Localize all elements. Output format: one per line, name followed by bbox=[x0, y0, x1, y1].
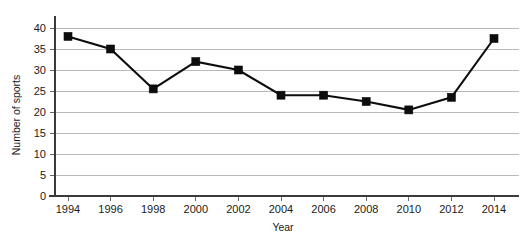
data-point-marker bbox=[149, 85, 157, 93]
y-axis-title: Number of sports bbox=[10, 75, 22, 156]
data-point-marker bbox=[490, 35, 498, 43]
data-point-marker bbox=[447, 93, 455, 101]
y-tick-label: 15 bbox=[34, 127, 46, 139]
x-tick-label: 2012 bbox=[439, 203, 463, 215]
y-tick-label: 35 bbox=[34, 43, 46, 55]
x-tick-label: 2000 bbox=[184, 203, 208, 215]
x-axis-title: Year bbox=[272, 221, 294, 233]
x-tick-label: 2004 bbox=[269, 203, 293, 215]
line-chart: 0510152025303540 19941996199820002002200… bbox=[0, 0, 529, 248]
data-point-marker bbox=[107, 45, 115, 53]
data-point-marker bbox=[362, 98, 370, 106]
data-point-marker bbox=[277, 91, 285, 99]
x-tick-label: 1998 bbox=[141, 203, 165, 215]
y-tick-label: 20 bbox=[34, 106, 46, 118]
data-point-marker bbox=[234, 66, 242, 74]
data-point-marker bbox=[405, 106, 413, 114]
x-tick-label: 1994 bbox=[56, 203, 80, 215]
y-tick-label: 40 bbox=[34, 22, 46, 34]
x-tick-label: 2002 bbox=[226, 203, 250, 215]
data-point-marker bbox=[64, 32, 72, 40]
y-tick-label: 25 bbox=[34, 85, 46, 97]
data-point-marker bbox=[320, 91, 328, 99]
x-tick-label: 2008 bbox=[354, 203, 378, 215]
x-tick-label: 1996 bbox=[98, 203, 122, 215]
y-tick-label: 5 bbox=[40, 169, 46, 181]
x-tick-label: 2014 bbox=[482, 203, 506, 215]
chart-figure: 0510152025303540 19941996199820002002200… bbox=[0, 0, 529, 248]
x-tick-label: 2006 bbox=[311, 203, 335, 215]
data-point-marker bbox=[192, 58, 200, 66]
y-tick-label: 10 bbox=[34, 148, 46, 160]
x-tick-label: 2010 bbox=[397, 203, 421, 215]
y-tick-label: 30 bbox=[34, 64, 46, 76]
y-tick-label: 0 bbox=[40, 190, 46, 202]
